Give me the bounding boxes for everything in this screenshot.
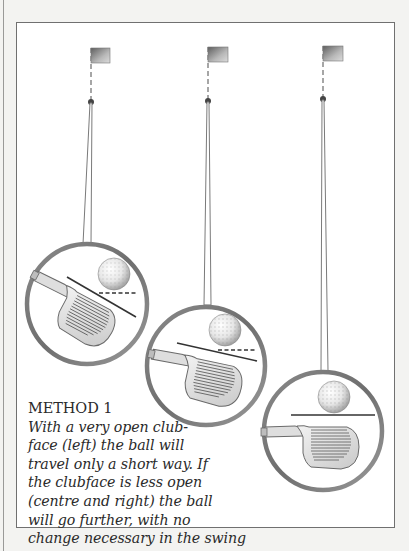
caption-line: (centre and right) the ball xyxy=(28,492,258,511)
illustration-panel: METHOD 1 With a very open club- face (le… xyxy=(16,22,395,528)
method-caption: METHOD 1 With a very open club- face (le… xyxy=(28,399,258,548)
caption-body: With a very open club- face (left) the b… xyxy=(28,418,258,548)
flag-icon xyxy=(323,46,343,61)
caption-heading: METHOD 1 xyxy=(28,399,258,418)
caption-line: With a very open club- xyxy=(28,418,258,437)
caption-line: the clubface is less open xyxy=(28,473,258,492)
caption-line: will go further, with no xyxy=(28,511,258,530)
caption-line: change necessary in the swing xyxy=(28,529,258,548)
stage-centre xyxy=(141,47,265,425)
caption-line: face (left) the ball will xyxy=(28,436,258,455)
flag-icon xyxy=(208,47,228,62)
caption-line: travel only a short way. If xyxy=(28,455,258,474)
flag-icon xyxy=(91,48,110,63)
stage-right xyxy=(261,46,382,490)
page-edge-line xyxy=(3,0,4,551)
stage-left xyxy=(17,48,147,364)
cropped-heading-text xyxy=(0,0,409,4)
